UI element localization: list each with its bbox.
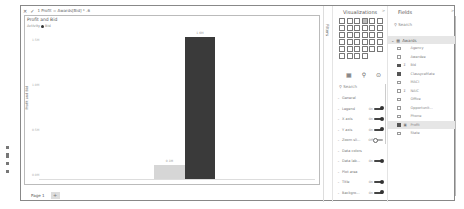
visual-type-grid [339, 18, 384, 60]
filled-map-icon[interactable] [347, 39, 353, 45]
field-office[interactable]: Office [388, 95, 456, 104]
format-section-x-axis[interactable]: ⌄X axisOn [337, 114, 383, 125]
format-section-zoom-slider[interactable]: ⌄Zoom sli...Off [337, 135, 383, 146]
checkbox[interactable] [397, 106, 401, 110]
formula-bar[interactable]: ✕ ✓ 1 Profit = Awards[Bid] * .6 [21, 6, 316, 15]
collapse-icon[interactable]: > [382, 8, 385, 13]
donut-chart-icon[interactable] [369, 32, 375, 38]
tab-page-1[interactable]: Page 1 [31, 193, 45, 198]
field-profit[interactable]: ▣Profit [388, 121, 456, 130]
field-classycemate[interactable]: ClassyceMate [388, 70, 456, 79]
field-opportunity[interactable]: Opportunit... [388, 104, 456, 113]
r-visual-icon[interactable] [369, 46, 375, 52]
bar-bid[interactable] [185, 37, 215, 179]
qa-icon[interactable] [354, 53, 360, 59]
table-awards[interactable]: ⌄ ▦ Awards [388, 36, 456, 44]
checkbox[interactable] [397, 115, 401, 119]
key-influencers-icon[interactable] [339, 53, 345, 59]
kpi-icon[interactable] [339, 46, 345, 52]
check-icon[interactable]: ✓ [30, 8, 34, 14]
format-search-input[interactable]: ⚲ Search [339, 84, 357, 89]
waterfall-icon[interactable] [339, 32, 345, 38]
line-chart-icon[interactable] [339, 25, 345, 31]
format-section-legend[interactable]: ⌄LegendOn [337, 104, 383, 115]
format-section-background[interactable]: ⌄Backgro...On [337, 188, 383, 199]
x-axis-toggle[interactable]: On [369, 117, 383, 121]
filters-label[interactable]: Filters [325, 24, 330, 36]
legend-toggle[interactable]: On [369, 107, 383, 111]
clustered-column-chart[interactable]: Profit and Bid Activity Bid Profit and B… [24, 15, 320, 185]
collapse-icon[interactable]: > [451, 8, 454, 13]
format-section-general[interactable]: ⌄General [337, 93, 383, 104]
fields-well-tab-icon[interactable]: ▦ [346, 71, 352, 78]
checkbox[interactable] [397, 64, 401, 68]
format-section-data-colors[interactable]: ⌄Data colors [337, 146, 383, 157]
field-bid[interactable]: ΣBid [388, 61, 456, 70]
analytics-tab-icon[interactable]: ⊙ [376, 71, 381, 78]
checkbox[interactable] [397, 81, 401, 85]
treemap-icon[interactable] [377, 32, 383, 38]
data-labels-toggle[interactable]: On [369, 159, 383, 163]
stacked-area-icon[interactable] [354, 25, 360, 31]
stacked-bar-chart-icon[interactable] [339, 18, 345, 24]
zoom-slider-toggle[interactable]: Off [369, 138, 383, 142]
field-agency[interactable]: Agency [388, 44, 456, 53]
format-section-data-labels[interactable]: ⌄Data lab...On [337, 156, 383, 167]
field-naic[interactable]: ΣNAIC [388, 87, 456, 96]
checkbox[interactable] [397, 123, 401, 127]
checkbox[interactable] [397, 89, 401, 93]
fields-scrollbar[interactable] [455, 16, 456, 196]
checkbox[interactable] [397, 47, 401, 51]
bar-profit[interactable] [154, 165, 185, 179]
format-section-title[interactable]: ⌄TitleOn [337, 177, 383, 188]
close-icon[interactable]: ✕ [23, 8, 27, 14]
format-section-plot-area[interactable]: ⌄Plot area [337, 167, 383, 178]
pie-chart-icon[interactable] [362, 32, 368, 38]
field-phone[interactable]: Phone [388, 112, 456, 121]
field-state[interactable]: State [388, 129, 456, 138]
scatter-icon[interactable] [354, 32, 360, 38]
multi-row-card-icon[interactable] [377, 39, 383, 45]
clustered-bar-chart-icon[interactable] [354, 18, 360, 24]
ribbon-chart-icon[interactable] [377, 25, 383, 31]
area-chart-icon[interactable] [347, 25, 353, 31]
format-scrollbar[interactable] [385, 84, 386, 144]
report-canvas[interactable]: Profit and Bid Activity Bid Profit and B… [21, 15, 323, 189]
table-icon[interactable] [354, 46, 360, 52]
matrix-icon[interactable] [362, 46, 368, 52]
fields-search-input[interactable]: ⚲ Search [388, 16, 456, 36]
background-toggle[interactable]: On [369, 191, 383, 195]
100-stacked-bar-icon[interactable] [369, 18, 375, 24]
format-section-y-axis[interactable]: ⌄Y axisOn [337, 125, 383, 136]
card-icon[interactable] [369, 39, 375, 45]
stacked-column-chart-icon[interactable] [347, 18, 353, 24]
more-visuals-icon[interactable] [362, 53, 368, 59]
x-axis-line [39, 179, 315, 180]
gauge-icon[interactable] [362, 39, 368, 45]
100-stacked-column-icon[interactable] [377, 18, 383, 24]
line-stacked-column-icon[interactable] [369, 25, 375, 31]
field-awardee[interactable]: Awardee [388, 53, 456, 62]
add-page-button[interactable]: + [51, 192, 60, 199]
title-toggle[interactable]: On [369, 180, 383, 184]
line-column-icon[interactable] [362, 25, 368, 31]
y-axis-toggle[interactable]: On [369, 128, 383, 132]
slicer-icon[interactable] [347, 46, 353, 52]
checkbox[interactable] [397, 98, 401, 102]
checkbox[interactable] [397, 72, 401, 76]
map-icon[interactable] [339, 39, 345, 45]
clustered-column-chart-icon[interactable] [362, 18, 368, 24]
funnel-icon[interactable] [347, 32, 353, 38]
formula-text[interactable]: 1 Profit = Awards[Bid] * .6 [37, 8, 90, 13]
filters-pane-collapsed[interactable]: Filters [323, 6, 332, 202]
format-options-list: ⌄General ⌄LegendOn ⌄X axisOn ⌄Y axisOn ⌄… [337, 93, 383, 198]
toggle-switch-icon [374, 118, 383, 120]
checkbox[interactable] [397, 55, 401, 59]
field-maci[interactable]: MACI [388, 78, 456, 87]
format-tab-icon[interactable]: ⚲ [362, 71, 366, 78]
shape-map-icon[interactable] [354, 39, 360, 45]
checkbox[interactable] [397, 132, 401, 136]
python-visual-icon[interactable] [377, 46, 383, 52]
toggle-switch-icon [374, 181, 383, 183]
decomposition-tree-icon[interactable] [347, 53, 353, 59]
